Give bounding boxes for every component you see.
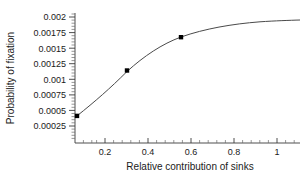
y-axis-major-ticks — [69, 17, 75, 126]
data-point-2 — [125, 68, 129, 72]
data-point-1 — [75, 114, 79, 118]
x-tick-label-3: 0.6 — [185, 147, 198, 157]
x-tick-label-1: 0.2 — [99, 147, 112, 157]
y-tick-label-5: 0.00125 — [33, 59, 66, 69]
x-tick-label-5: 1 — [274, 147, 279, 157]
y-tick-label-2: 0.0005 — [38, 106, 66, 116]
fitted-curve — [77, 20, 300, 116]
x-axis-title: Relative contribution of sinks — [126, 161, 253, 172]
x-tick-label-4: 0.8 — [228, 147, 241, 157]
y-tick-label-6: 0.0015 — [38, 44, 66, 54]
data-point-3 — [179, 35, 183, 39]
y-tick-label-1: 0.00025 — [33, 121, 66, 131]
y-tick-label-4: 0.001 — [43, 75, 66, 85]
x-tick-label-2: 0.4 — [142, 147, 155, 157]
y-tick-label-7: 0.00175 — [33, 28, 66, 38]
y-tick-label-8: 0.002 — [43, 12, 66, 22]
y-axis-title: Probability of fixation — [5, 32, 16, 124]
y-tick-label-3: 0.00075 — [33, 90, 66, 100]
chart-figure: 0.002 0.00175 0.0015 0.00125 0.001 0.000… — [0, 0, 301, 181]
scatter-plot: 0.002 0.00175 0.0015 0.00125 0.001 0.000… — [0, 0, 301, 181]
